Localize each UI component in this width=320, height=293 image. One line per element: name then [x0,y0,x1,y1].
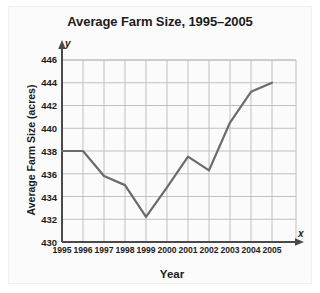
x-axis-arrow-icon [295,238,304,246]
y-axis-arrow-icon [58,40,66,49]
axis-lines [58,40,304,246]
chart-figure: Average Farm Size, 1995–2005 Average Far… [0,0,320,293]
plot-area [0,0,320,293]
